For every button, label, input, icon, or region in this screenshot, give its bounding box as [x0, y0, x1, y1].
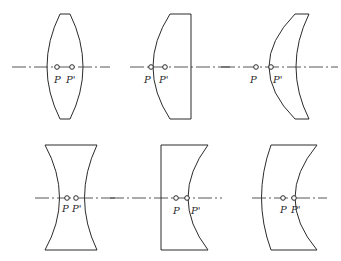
lens-outline	[269, 14, 309, 119]
lens-outline	[262, 145, 318, 250]
lens-biconcave: P P'	[35, 145, 115, 250]
principal-point-p	[149, 65, 154, 70]
label-p: P	[172, 205, 180, 216]
lens-outline	[47, 14, 83, 119]
principal-point-p	[254, 65, 259, 70]
label-p: P	[143, 74, 151, 85]
label-p-prime: P'	[272, 74, 282, 85]
lens-negative-meniscus: P P'	[252, 145, 327, 250]
label-p: P	[53, 74, 61, 85]
lens-plano-concave: P P'	[110, 145, 222, 250]
label-p-prime: P'	[71, 203, 81, 214]
lens-biconvex: P P'	[12, 14, 110, 119]
principal-point-p	[65, 196, 70, 201]
principal-point-p-prime	[269, 65, 274, 70]
label-p: P	[279, 204, 287, 215]
lens-outline	[153, 14, 191, 119]
label-p-prime: P'	[190, 205, 200, 216]
label-p-prime: P'	[290, 204, 300, 215]
lens-positive-meniscus: P P'	[221, 14, 338, 119]
principal-point-p-prime	[185, 196, 190, 201]
label-p-prime: P'	[158, 74, 168, 85]
principal-point-p	[55, 65, 60, 70]
principal-point-p-prime	[74, 196, 79, 201]
principal-point-p-prime	[292, 196, 297, 201]
lens-outline	[45, 145, 97, 250]
lens-plano-convex: P P'	[130, 14, 230, 119]
label-p-prime: P'	[65, 74, 75, 85]
principal-point-p-prime	[70, 65, 75, 70]
label-p: P	[61, 203, 69, 214]
lens-diagram: P P' P P' P P' P P' P P'	[0, 0, 341, 261]
principal-point-p	[174, 196, 179, 201]
principal-point-p-prime	[163, 65, 168, 70]
principal-point-p	[281, 196, 286, 201]
label-p: P	[249, 74, 257, 85]
